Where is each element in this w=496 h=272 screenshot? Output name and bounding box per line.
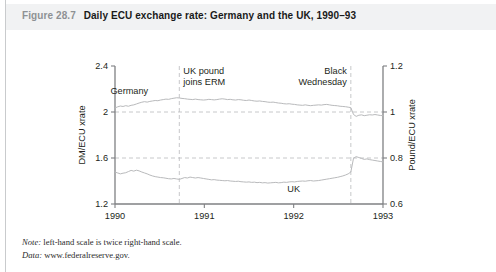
annotation-1-line2: joins ERM [182, 77, 225, 87]
x-axis-tick-label: 1991 [194, 211, 214, 221]
y-axis-tick-label: 1.2 [95, 199, 108, 209]
y-axis-title: DM/ECU xrate [77, 105, 87, 164]
figure-page: Figure 28.7 Daily ECU exchange rate: Ger… [0, 0, 496, 272]
y-axis-tick-label: 2 [103, 107, 108, 117]
note-text: left-hand scale is twice right-hand scal… [41, 237, 182, 247]
y2-axis-title: Pound/ECU xrate [407, 99, 417, 171]
annotation-1-line1: UK pound [183, 66, 224, 76]
y-axis-tick-label: 2.4 [95, 61, 108, 71]
data-source-row: Data: www.federalreserve.gov. [22, 249, 182, 262]
series-label-germany: Germany [110, 86, 148, 96]
y2-axis-tick-label: 1 [390, 107, 395, 117]
y2-axis-tick-label: 0.8 [390, 153, 403, 163]
note-label: Note: [22, 237, 41, 247]
x-axis-tick-label: 1992 [283, 211, 303, 221]
figure-caption: Daily ECU exchange rate: Germany and the… [84, 10, 357, 21]
series-line-germany [115, 98, 383, 117]
data-source-label: Data: [22, 250, 42, 260]
note-row: Note: left-hand scale is twice right-han… [22, 236, 182, 249]
series-line-uk [115, 157, 383, 183]
annotation-2-line1: Black [324, 66, 347, 76]
y2-axis-tick-label: 1.2 [390, 61, 403, 71]
x-axis-tick-label: 1993 [373, 211, 393, 221]
series-label-uk: UK [287, 184, 301, 194]
y-axis-tick-label: 1.6 [95, 153, 108, 163]
y2-axis-tick-label: 0.6 [390, 199, 403, 209]
figure-title: Figure 28.7 Daily ECU exchange rate: Ger… [22, 10, 356, 21]
exchange-rate-line-chart: 2.421.61.21.210.80.61990199119921993DM/E… [0, 34, 496, 224]
x-axis-tick-label: 1990 [105, 211, 125, 221]
figure-notes: Note: left-hand scale is twice right-han… [22, 236, 182, 262]
data-source-text: www.federalreserve.gov. [42, 250, 130, 260]
annotation-2-line2: Wednesday [298, 77, 347, 87]
figure-number: Figure 28.7 [22, 10, 76, 21]
chart-container: 2.421.61.21.210.80.61990199119921993DM/E… [0, 34, 496, 224]
